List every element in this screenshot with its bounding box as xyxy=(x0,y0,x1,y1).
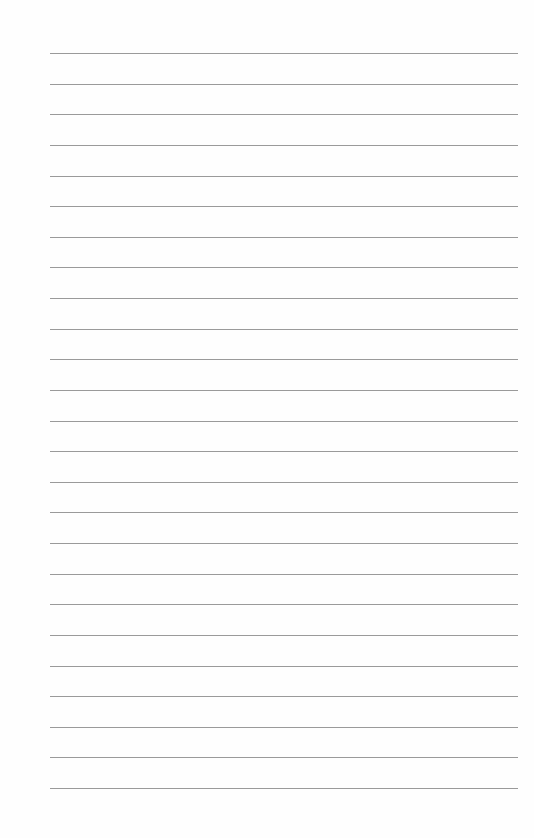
ruled-line xyxy=(50,512,518,513)
ruled-line xyxy=(50,84,518,85)
ruled-line xyxy=(50,727,518,728)
ruled-line xyxy=(50,635,518,636)
ruled-line xyxy=(50,757,518,758)
ruled-line xyxy=(50,574,518,575)
ruled-line xyxy=(50,696,518,697)
ruled-line xyxy=(50,206,518,207)
ruled-line xyxy=(50,666,518,667)
ruled-line xyxy=(50,145,518,146)
ruled-line xyxy=(50,451,518,452)
ruled-line xyxy=(50,359,518,360)
ruled-line xyxy=(50,543,518,544)
lined-paper xyxy=(0,0,534,838)
ruled-line xyxy=(50,298,518,299)
ruled-line xyxy=(50,53,518,54)
ruled-line xyxy=(50,237,518,238)
ruled-line xyxy=(50,176,518,177)
ruled-line xyxy=(50,482,518,483)
ruled-line xyxy=(50,114,518,115)
ruled-line xyxy=(50,267,518,268)
ruled-line xyxy=(50,421,518,422)
ruled-line xyxy=(50,329,518,330)
ruled-line xyxy=(50,604,518,605)
ruled-line xyxy=(50,390,518,391)
ruled-line xyxy=(50,788,518,789)
